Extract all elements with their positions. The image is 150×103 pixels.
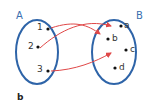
element-a: a bbox=[124, 20, 130, 30]
dot-a bbox=[119, 24, 122, 27]
dot-3 bbox=[46, 69, 49, 72]
element-c: c bbox=[130, 44, 135, 54]
arrow-1-to-b bbox=[51, 24, 100, 34]
dot-c bbox=[124, 48, 127, 51]
element-1: 1 bbox=[37, 22, 43, 32]
dot-1 bbox=[46, 27, 49, 30]
element-3: 3 bbox=[37, 64, 43, 74]
element-b: b bbox=[112, 33, 118, 43]
element-d: d bbox=[119, 62, 125, 72]
figure-caption: b bbox=[17, 92, 23, 102]
set-b-label: B bbox=[136, 10, 143, 21]
arrow-3-to-c bbox=[51, 53, 111, 71]
dot-b bbox=[106, 37, 109, 40]
dot-d bbox=[113, 66, 116, 69]
element-2: 2 bbox=[28, 41, 34, 51]
dot-2 bbox=[36, 45, 39, 48]
set-a-label: A bbox=[16, 10, 23, 21]
